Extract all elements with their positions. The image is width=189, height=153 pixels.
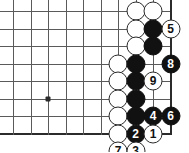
stone-black	[126, 89, 145, 108]
move-number-label: 3	[132, 145, 139, 153]
grid-line-vertical	[13, 0, 14, 135]
stone-white	[144, 2, 163, 21]
move-number-label: 9	[150, 75, 157, 87]
stone-black	[144, 19, 163, 38]
star-point	[46, 96, 51, 101]
grid-line-vertical	[31, 0, 32, 135]
stone-white	[109, 54, 128, 73]
move-number-label: 7	[115, 145, 122, 153]
move-number-label: 5	[167, 22, 174, 34]
grid-line-vertical	[101, 0, 102, 135]
stone-black	[144, 37, 163, 56]
grid-line-horizontal	[0, 99, 172, 100]
stone-black	[126, 72, 145, 91]
stone-black	[126, 107, 145, 126]
grid-line-horizontal	[0, 64, 172, 65]
move-stone-2: 2	[126, 124, 145, 143]
stone-white	[109, 89, 128, 108]
stone-white	[109, 107, 128, 126]
move-stone-7: 7	[109, 142, 128, 153]
move-stone-5: 5	[161, 19, 180, 38]
move-stone-6: 6	[161, 107, 180, 126]
move-number-label: 2	[132, 127, 139, 139]
move-number-label: 4	[150, 110, 157, 122]
move-stone-9: 9	[144, 72, 163, 91]
stone-white	[126, 37, 145, 56]
grid-line-vertical	[83, 0, 84, 135]
grid-line-vertical	[48, 0, 49, 135]
grid-line-vertical	[66, 0, 67, 135]
stone-white	[126, 19, 145, 38]
move-number-label: 1	[150, 127, 157, 139]
stone-white	[126, 2, 145, 21]
stone-black	[126, 54, 145, 73]
move-stone-3: 3	[126, 142, 145, 153]
stone-white	[109, 72, 128, 91]
move-number-label: 8	[167, 57, 174, 69]
go-board-diagram: 589462173	[0, 0, 189, 152]
move-stone-1: 1	[144, 124, 163, 143]
stone-white	[109, 124, 128, 143]
move-stone-4: 4	[144, 107, 163, 126]
move-number-label: 6	[167, 110, 174, 122]
move-stone-8: 8	[161, 54, 180, 73]
